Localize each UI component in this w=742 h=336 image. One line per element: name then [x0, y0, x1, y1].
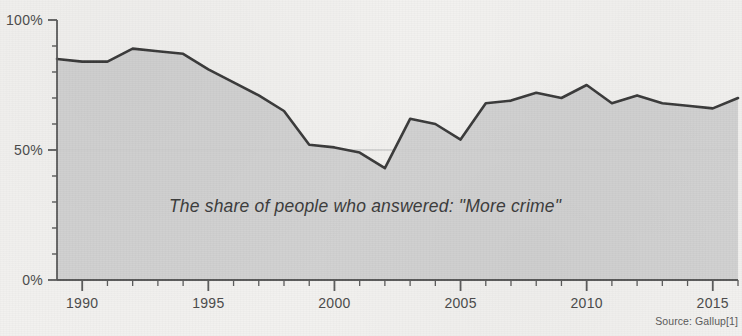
x-axis-label-2010: 2010	[570, 295, 602, 311]
x-axis-label-1990: 1990	[66, 295, 98, 311]
source-credit-label: Source: Gallup[1]	[655, 315, 738, 327]
crime-perception-area-chart: 0%50%100% 199019952000200520102015 The s…	[0, 0, 742, 336]
x-axis-label-2000: 2000	[318, 295, 350, 311]
x-axis-label-2015: 2015	[697, 295, 729, 311]
x-axis-label-2005: 2005	[444, 295, 476, 311]
y-axis-label-50: 50%	[14, 142, 43, 158]
chart-svg-canvas: 0%50%100% 199019952000200520102015 The s…	[0, 0, 742, 336]
y-axis-label-0: 0%	[22, 272, 43, 288]
chart-annotation-label: The share of people who answered: "More …	[169, 196, 562, 216]
x-axis-label-1995: 1995	[192, 295, 224, 311]
y-axis-label-100: 100%	[6, 12, 43, 28]
